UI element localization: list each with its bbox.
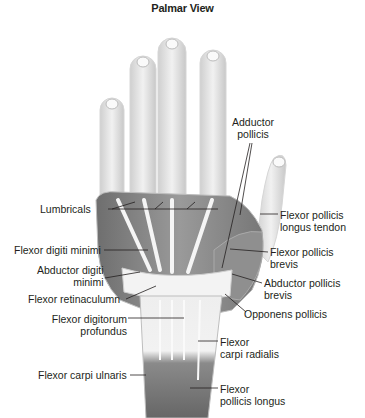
- label-flexor-digiti-minimi: Flexor digiti minimi: [14, 244, 101, 256]
- finger-ring: [130, 56, 156, 206]
- label-line: carpi radialis: [220, 348, 279, 360]
- label-line: Flexor digitorum: [49, 313, 127, 325]
- label-line: Flexor pollicis: [280, 209, 346, 221]
- label-flexor-carpi-ulnaris: Flexor carpi ulnaris: [38, 369, 127, 381]
- label-line: Flexor: [220, 383, 285, 395]
- label-flexor-pollicis-brevis: Flexor pollicis brevis: [270, 246, 334, 270]
- label-abductor-digiti-minimi: Abductor digiti minimi: [37, 264, 104, 288]
- label-flexor-carpi-radialis: Flexor carpi radialis: [220, 336, 279, 360]
- label-line: longus tendon: [280, 221, 346, 233]
- label-flexor-retinaculum: Flexor retinaculumn: [28, 293, 120, 305]
- label-adductor-pollicis: Adductor pollicis: [232, 116, 274, 140]
- finger-index: [200, 50, 226, 210]
- label-lumbricals: Lumbricals: [40, 203, 91, 215]
- label-line: brevis: [264, 289, 340, 301]
- label-line: Abductor digiti: [37, 264, 104, 276]
- label-flexor-pollicis-longus: Flexor pollicis longus: [220, 383, 285, 407]
- label-flexor-digitorum-profundus: Flexor digitorum profundus: [49, 313, 127, 337]
- label-flexor-pollicis-longus-tendon: Flexor pollicis longus tendon: [280, 209, 346, 233]
- label-line: minimi: [37, 276, 104, 288]
- label-line: Flexor: [220, 336, 279, 348]
- label-line: Abductor pollicis: [264, 277, 340, 289]
- label-line: Flexor pollicis: [270, 246, 334, 258]
- label-line: pollicis: [232, 128, 274, 140]
- label-opponens-pollicis: Opponens pollicis: [244, 308, 327, 320]
- label-line: brevis: [270, 258, 334, 270]
- label-abductor-pollicis-brevis: Abductor pollicis brevis: [264, 277, 340, 301]
- finger-middle: [158, 38, 186, 208]
- label-line: Adductor: [232, 116, 274, 128]
- label-line: profundus: [49, 325, 127, 337]
- label-line: pollicis longus: [220, 395, 285, 407]
- forearm: [140, 296, 222, 418]
